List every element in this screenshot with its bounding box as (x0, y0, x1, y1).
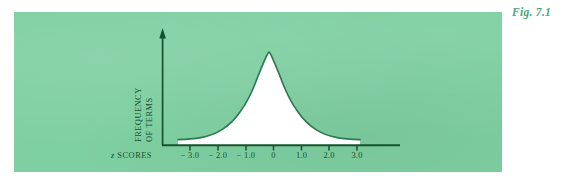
x-tick-label-pos2: 2.0 (323, 151, 334, 160)
figure-caption: Fig. 7.1 (512, 6, 551, 18)
x-tick-label-neg3: − 3.0 (181, 151, 199, 160)
figure-root: FREQUENCY OF TERMS z SCORES − 3.0 − 2.0 … (0, 0, 568, 184)
x-axis-title-text: SCORES (117, 151, 152, 160)
y-axis-label: FREQUENCY OF TERMS (134, 42, 158, 142)
y-axis-label-line-2: OF TERMS (145, 97, 154, 142)
x-tick-label-pos3: 3.0 (351, 151, 362, 160)
x-tick-label-pos1: 1.0 (296, 151, 307, 160)
bell-curve-area (178, 52, 360, 145)
x-tick-label-neg2: − 2.0 (209, 151, 227, 160)
x-axis-title: z SCORES (111, 151, 152, 160)
y-axis-arrowhead (159, 28, 166, 39)
y-axis-label-line-1: FREQUENCY (134, 87, 143, 142)
normal-distribution-plot (0, 0, 568, 184)
x-tick-label-neg1: − 1.0 (237, 151, 255, 160)
x-tick-label-zero: 0 (271, 151, 275, 160)
